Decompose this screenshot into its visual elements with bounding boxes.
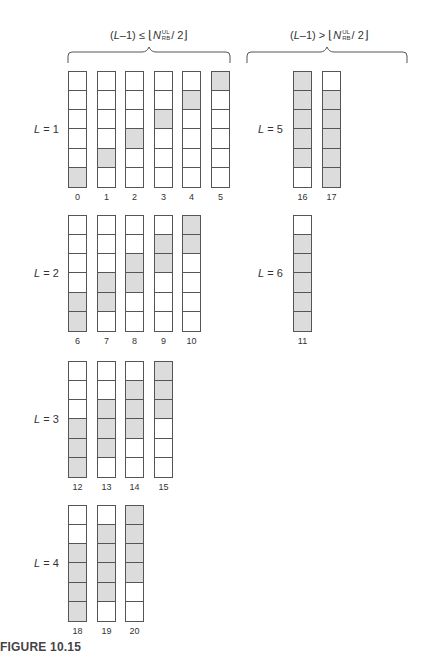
- column-index-label: 17: [322, 192, 341, 202]
- cell-allocated: [98, 439, 115, 458]
- cell-free: [98, 254, 115, 273]
- subscript-rb: RB: [342, 35, 350, 41]
- formula-left: (L–1) ≤ ⌊NULRB/ 2⌋: [110, 28, 188, 42]
- cell-allocated: [98, 525, 115, 544]
- cell-free: [155, 458, 172, 477]
- row-label: L = 4: [34, 557, 59, 569]
- cell-allocated: [294, 235, 311, 254]
- formula-left-minus-one: –1): [120, 29, 136, 41]
- cell-free: [294, 168, 311, 187]
- cell-free: [183, 293, 200, 312]
- column-index-label: 8: [125, 336, 144, 346]
- cell-free: [126, 439, 143, 458]
- cell-free: [126, 362, 143, 381]
- formula-left-N: N: [153, 29, 161, 41]
- cell-free: [126, 293, 143, 312]
- cell-free: [69, 129, 86, 148]
- cell-allocated: [69, 458, 86, 477]
- rb-column: [125, 505, 144, 622]
- cell-free: [98, 129, 115, 148]
- cell-free: [126, 235, 143, 254]
- subscript-rb: RB: [162, 35, 170, 41]
- formula-right-N: N: [333, 29, 341, 41]
- column-index-label: 4: [182, 192, 201, 202]
- cell-free: [155, 91, 172, 110]
- cell-free: [155, 419, 172, 438]
- cell-free: [155, 216, 172, 235]
- cell-allocated: [183, 235, 200, 254]
- cell-allocated: [69, 563, 86, 582]
- column-index-label: 9: [154, 336, 173, 346]
- column-index-label: 5: [211, 192, 230, 202]
- cell-free: [69, 149, 86, 168]
- cell-allocated: [294, 293, 311, 312]
- row-label-value: = 3: [40, 413, 59, 425]
- column-index-label: 20: [125, 626, 144, 636]
- cell-free: [98, 602, 115, 621]
- cell-allocated: [294, 72, 311, 91]
- cell-free: [323, 72, 340, 91]
- column-index-label: 11: [293, 336, 312, 346]
- cell-allocated: [98, 419, 115, 438]
- column-index-label: 10: [182, 336, 201, 346]
- cell-allocated: [155, 235, 172, 254]
- column-index-label: 6: [68, 336, 87, 346]
- cell-free: [98, 168, 115, 187]
- cell-allocated: [183, 216, 200, 235]
- cell-free: [155, 273, 172, 292]
- brace-left-icon: [66, 46, 232, 64]
- formula-right-divisor: / 2: [352, 29, 364, 41]
- formula-left-scripts: ULRB: [162, 29, 170, 41]
- cell-allocated: [69, 544, 86, 563]
- cell-free: [98, 362, 115, 381]
- row-label-value: = 1: [40, 123, 59, 135]
- cell-allocated: [294, 110, 311, 129]
- cell-free: [155, 168, 172, 187]
- cell-allocated: [126, 273, 143, 292]
- cell-allocated: [126, 129, 143, 148]
- rb-column: [97, 361, 116, 478]
- row-label: L = 5: [258, 123, 283, 135]
- cell-allocated: [69, 419, 86, 438]
- cell-allocated: [126, 254, 143, 273]
- cell-free: [69, 362, 86, 381]
- cell-free: [69, 110, 86, 129]
- rb-column: [182, 215, 201, 332]
- row-label-value: = 4: [40, 557, 59, 569]
- cell-allocated: [294, 312, 311, 331]
- cell-free: [69, 72, 86, 91]
- cell-free: [155, 293, 172, 312]
- cell-free: [183, 129, 200, 148]
- floor-close: ⌋: [183, 28, 188, 42]
- cell-allocated: [126, 544, 143, 563]
- cell-free: [155, 149, 172, 168]
- rb-column: [154, 71, 173, 188]
- rb-column: [97, 215, 116, 332]
- cell-allocated: [98, 400, 115, 419]
- cell-allocated: [212, 72, 229, 91]
- cell-allocated: [126, 419, 143, 438]
- formula-right-minus-one: –1): [300, 29, 316, 41]
- rb-column: [125, 361, 144, 478]
- figure-caption: FIGURE 10.15: [0, 640, 81, 654]
- cell-free: [126, 458, 143, 477]
- rb-column: [154, 215, 173, 332]
- cell-free: [126, 168, 143, 187]
- cell-free: [126, 149, 143, 168]
- cell-allocated: [98, 544, 115, 563]
- cell-free: [98, 381, 115, 400]
- rb-column: [68, 505, 87, 622]
- cell-free: [69, 506, 86, 525]
- rb-column: [125, 71, 144, 188]
- cell-allocated: [69, 439, 86, 458]
- formula-left-operator: ≤: [139, 29, 145, 41]
- cell-free: [212, 149, 229, 168]
- cell-allocated: [69, 583, 86, 602]
- cell-free: [126, 91, 143, 110]
- cell-allocated: [294, 91, 311, 110]
- cell-free: [69, 381, 86, 400]
- cell-free: [126, 312, 143, 331]
- rb-column: [293, 71, 312, 188]
- rb-column: [293, 215, 312, 332]
- cell-allocated: [69, 293, 86, 312]
